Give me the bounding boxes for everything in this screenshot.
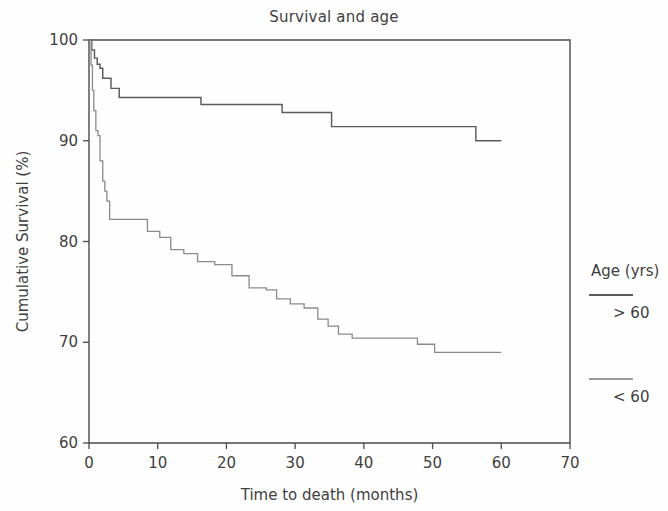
chart-legend: Age (yrs)> 60< 60 [589, 262, 659, 406]
x-tick-label-40: 40 [354, 454, 373, 472]
chart-axes [89, 40, 570, 443]
survival-curves [89, 40, 501, 352]
x-axis-title: Time to death (months) [240, 486, 419, 504]
y-tick-label-100: 100 [49, 31, 78, 49]
x-tick-label-20: 20 [217, 454, 236, 472]
x-tick-label-60: 60 [492, 454, 511, 472]
legend-label-age-under-60: < 60 [613, 388, 649, 406]
survival-chart-figure: Survival and age 60708090100010203040506… [0, 0, 668, 511]
x-tick-label-50: 50 [423, 454, 442, 472]
legend-label-age-over-60: > 60 [613, 304, 649, 322]
x-tick-label-70: 70 [560, 454, 579, 472]
legend-title: Age (yrs) [591, 262, 659, 280]
x-tick-label-0: 0 [84, 454, 94, 472]
y-tick-label-90: 90 [59, 132, 78, 150]
x-tick-label-10: 10 [148, 454, 167, 472]
chart-canvas: 60708090100010203040506070 Time to death… [0, 0, 668, 511]
curve-age-over-60 [89, 40, 501, 141]
curve-age-under-60 [89, 40, 501, 352]
y-axis-title: Cumulative Survival (%) [14, 151, 32, 333]
x-tick-label-30: 30 [286, 454, 305, 472]
axis-ticks [83, 40, 570, 449]
y-tick-label-60: 60 [59, 434, 78, 452]
plot-frame [89, 40, 570, 443]
y-tick-label-70: 70 [59, 333, 78, 351]
y-tick-label-80: 80 [59, 233, 78, 251]
